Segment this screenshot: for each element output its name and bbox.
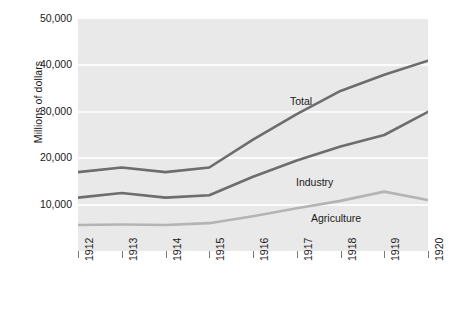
x-tick-label-1913: 1913 — [127, 238, 139, 261]
y-tick-label-50000: 50,000 — [16, 12, 72, 24]
series-line-agriculture — [78, 192, 428, 225]
x-tick-label-1912: 1912 — [83, 238, 95, 261]
x-tick-1918 — [341, 251, 342, 258]
x-tick-1916 — [253, 251, 254, 258]
x-tick-label-1917: 1917 — [302, 238, 314, 261]
y-tick-label-20000: 20,000 — [16, 151, 72, 163]
series-lines — [78, 19, 428, 251]
y-axis-tick-labels: 10,00020,00030,00040,00050,000 — [12, 0, 72, 313]
x-tick-label-1914: 1914 — [171, 238, 183, 261]
y-tick-label-30000: 30,000 — [16, 105, 72, 117]
x-axis: 191219131914191519161917191819191920 — [78, 251, 428, 313]
series-label-agriculture: Agriculture — [311, 212, 361, 224]
plot-area — [78, 19, 428, 251]
x-tick-label-1920: 1920 — [433, 238, 445, 261]
x-tick-1913 — [122, 251, 123, 258]
y-tick-label-40000: 40,000 — [16, 58, 72, 70]
series-line-total — [78, 61, 428, 172]
y-tick-label-10000: 10,000 — [16, 198, 72, 210]
line-chart: Millions of dollars 10,00020,00030,00040… — [0, 0, 458, 313]
x-tick-label-1915: 1915 — [214, 238, 226, 261]
x-tick-1914 — [166, 251, 167, 258]
x-tick-1912 — [78, 251, 79, 258]
x-tick-1917 — [297, 251, 298, 258]
x-tick-label-1918: 1918 — [346, 238, 358, 261]
x-tick-label-1919: 1919 — [389, 238, 401, 261]
x-tick-1919 — [384, 251, 385, 258]
series-line-industry — [78, 112, 428, 198]
x-tick-1920 — [428, 251, 429, 258]
series-label-industry: Industry — [296, 176, 333, 188]
x-tick-1915 — [209, 251, 210, 258]
x-tick-label-1916: 1916 — [258, 238, 270, 261]
series-label-total: Total — [290, 95, 312, 107]
